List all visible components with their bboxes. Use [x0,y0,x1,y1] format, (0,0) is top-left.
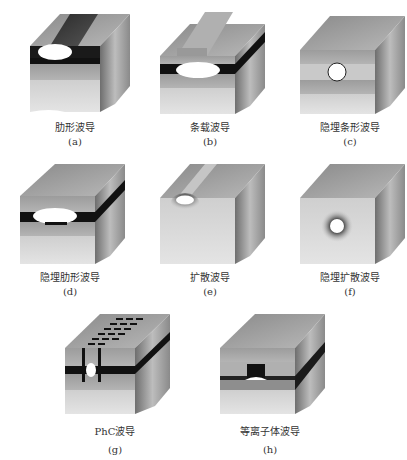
caption: 隐埋肋形波导 [15,272,125,284]
strip-loaded-waveguide-diagram [155,8,265,120]
panel-label: (a) [20,136,130,148]
panel-h-plasmonic-waveguide: 等离子体波导 (h) [215,308,325,460]
caption: 条载波导 [155,122,265,134]
rib-waveguide-diagram [20,8,130,120]
panel-d-buried-rib-waveguide: 隐埋肋形波导 (d) [15,158,125,300]
plasmonic-waveguide-diagram [215,308,325,420]
caption: 肋形波导 [20,122,130,134]
caption: 等离子体波导 [215,426,325,438]
panel-f-buried-diffused-waveguide: 隐埋扩散波导 (f) [295,158,405,300]
panel-label: (g) [60,444,170,456]
diffused-waveguide-diagram [155,158,265,270]
panel-label: (d) [15,286,125,298]
caption: 扩散波导 [155,272,265,284]
panel-label: (c) [295,136,405,148]
panel-label: (e) [155,286,265,298]
caption: PhC波导 [60,426,170,438]
buried-strip-waveguide-diagram [295,8,405,120]
panel-label: (h) [215,444,325,456]
caption: 隐埋扩散波导 [295,272,405,284]
buried-diffused-waveguide-diagram [295,158,405,270]
panel-label: (f) [295,286,405,298]
panel-b-strip-loaded-waveguide: 条载波导 (b) [155,8,265,150]
panel-g-phc-waveguide: PhC波导 (g) [60,308,170,460]
phc-waveguide-diagram [60,308,170,420]
panel-e-diffused-waveguide: 扩散波导 (e) [155,158,265,300]
panel-c-buried-strip-waveguide: 隐埋条形波导 (c) [295,8,405,150]
panel-a-rib-waveguide: 肋形波导 (a) [20,8,130,150]
panel-label: (b) [155,136,265,148]
buried-rib-waveguide-diagram [15,158,125,270]
caption: 隐埋条形波导 [295,122,405,134]
